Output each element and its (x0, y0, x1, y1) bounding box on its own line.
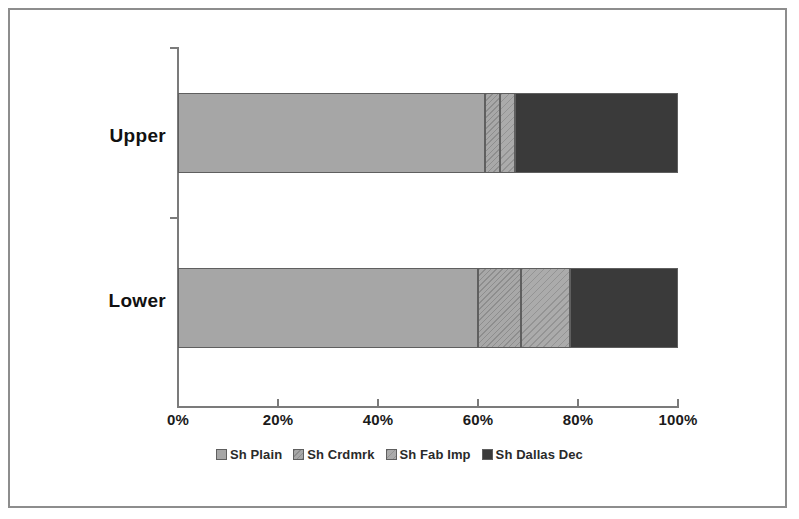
legend-item-sh-plain: Sh Plain (216, 447, 282, 462)
y-axis-category-label-lower: Lower (58, 290, 166, 312)
y-axis-tick-top (170, 47, 178, 49)
legend-swatch-icon-sh-dallas-dec (482, 449, 493, 460)
bar-upper-segment-sh-fab-imp (500, 93, 515, 173)
x-axis-tick-0 (177, 399, 179, 407)
bar-lower-segment-sh-crdmrk (478, 268, 521, 348)
bar-lower-segment-sh-plain (178, 268, 478, 348)
legend-swatch-icon-sh-crdmrk (293, 449, 304, 460)
chart-legend: Sh Plain Sh Crdmrk Sh Fab Imp Sh Dallas … (0, 447, 799, 462)
bar-lower-segment-sh-dallas-dec (570, 268, 678, 348)
legend-label-sh-plain: Sh Plain (230, 447, 282, 462)
x-axis-line (177, 406, 679, 408)
bar-lower (178, 268, 678, 348)
chart-page: 0% 20% 40% 60% 80% 100% Upper Lower Sh P… (0, 0, 799, 519)
legend-label-sh-fab-imp: Sh Fab Imp (400, 447, 471, 462)
legend-item-sh-dallas-dec: Sh Dallas Dec (482, 447, 583, 462)
x-axis-tick-40 (377, 399, 379, 407)
bar-upper-segment-sh-crdmrk (485, 93, 500, 173)
y-axis-tick-mid (170, 217, 178, 219)
bar-upper-segment-sh-plain (178, 93, 485, 173)
legend-item-sh-fab-imp: Sh Fab Imp (386, 447, 471, 462)
bar-upper (178, 93, 678, 173)
x-axis-tick-80 (577, 399, 579, 407)
x-axis-tick-60 (477, 399, 479, 407)
y-axis-category-label-upper: Upper (58, 125, 166, 147)
bar-upper-segment-sh-dallas-dec (515, 93, 678, 173)
legend-swatch-icon-sh-fab-imp (386, 449, 397, 460)
x-axis-label-40: 40% (363, 411, 394, 428)
x-axis-label-60: 60% (463, 411, 494, 428)
x-axis-label-100: 100% (658, 411, 697, 428)
x-axis-tick-20 (277, 399, 279, 407)
x-axis-label-20: 20% (263, 411, 294, 428)
x-axis-label-80: 80% (563, 411, 594, 428)
x-axis-tick-100 (677, 399, 679, 407)
bar-lower-segment-sh-fab-imp (521, 268, 570, 348)
legend-swatch-icon-sh-plain (216, 449, 227, 460)
legend-label-sh-crdmrk: Sh Crdmrk (307, 447, 374, 462)
plot-area: 0% 20% 40% 60% 80% 100% Upper Lower Sh P… (0, 0, 799, 519)
legend-label-sh-dallas-dec: Sh Dallas Dec (496, 447, 583, 462)
x-axis-label-0: 0% (167, 411, 189, 428)
legend-item-sh-crdmrk: Sh Crdmrk (293, 447, 374, 462)
